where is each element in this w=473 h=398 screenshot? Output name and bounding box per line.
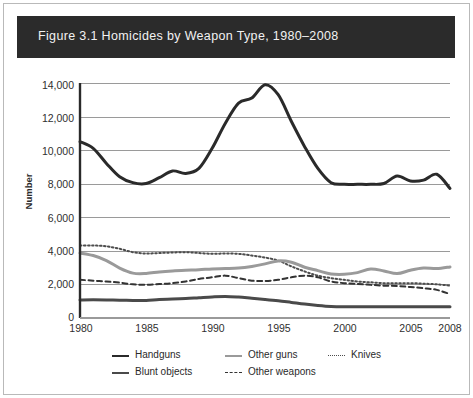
- x-tick: 2005: [399, 322, 422, 334]
- legend-item-other-weapons[interactable]: Other weapons: [225, 367, 316, 377]
- legend-line-icon: [328, 350, 345, 360]
- x-tick: 1980: [69, 322, 92, 334]
- legend-row: Blunt objects Other weapons: [112, 367, 412, 384]
- legend-label: Handguns: [135, 350, 181, 360]
- chart-svg: [0, 0, 473, 398]
- x-tick: 1985: [135, 322, 158, 334]
- chart-plot-area: Number 0 2,000 4,000 6,000 8,000 10,000 …: [0, 0, 473, 398]
- legend-line-icon: [225, 350, 242, 360]
- x-tick: 1995: [267, 322, 290, 334]
- legend-item-blunt-objects[interactable]: Blunt objects: [112, 367, 192, 377]
- x-tick: 1990: [201, 322, 224, 334]
- legend-label: Other weapons: [248, 367, 316, 377]
- series-line-handguns: [80, 85, 450, 189]
- legend-label: Blunt objects: [135, 367, 192, 377]
- x-tick: 2000: [333, 322, 356, 334]
- series-line-other-guns: [80, 253, 450, 274]
- series-line-blunt-objects: [80, 296, 450, 306]
- legend-line-icon: [112, 350, 129, 360]
- x-tick: 2008: [438, 322, 461, 334]
- legend-item-other-guns[interactable]: Other guns: [225, 350, 297, 360]
- legend-label: Knives: [351, 350, 381, 360]
- legend-label: Other guns: [248, 350, 297, 360]
- legend-line-icon: [225, 367, 242, 377]
- legend-item-knives[interactable]: Knives: [328, 350, 381, 360]
- legend-item-handguns[interactable]: Handguns: [112, 350, 181, 360]
- chart-legend: Handguns Other guns Knives Blunt objects: [112, 350, 412, 384]
- legend-line-icon: [112, 367, 129, 377]
- figure-container: Figure 3.1 Homicides by Weapon Type, 198…: [0, 0, 473, 398]
- legend-row: Handguns Other guns Knives: [112, 350, 412, 367]
